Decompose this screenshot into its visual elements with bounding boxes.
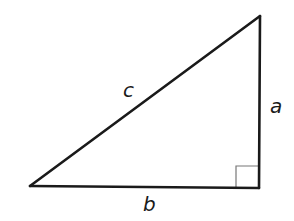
right-triangle-diagram: [0, 0, 294, 221]
label-c: c: [123, 80, 134, 100]
label-a: a: [270, 96, 282, 116]
leg-a: [259, 16, 260, 188]
label-b: b: [143, 194, 156, 214]
